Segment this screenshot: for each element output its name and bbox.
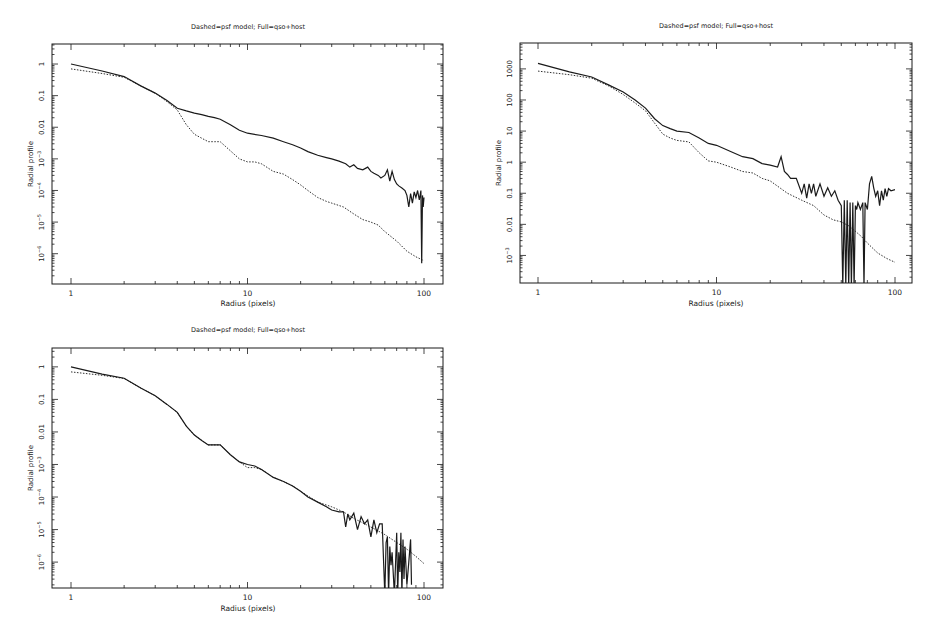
chart-svg: Dashed=psf model; Full=qso+host Radius (…	[468, 0, 936, 318]
chart-panel-2: Dashed=psf model; Full=qso+host Radius (…	[468, 0, 936, 318]
x-axis-label: Radius (pixels)	[220, 604, 275, 613]
plot-area: 11010010.10.0110−310−410−510−6	[36, 44, 443, 298]
y-tick-label: 0.1	[38, 394, 46, 405]
y-tick-label: 10−3	[36, 456, 46, 472]
y-tick-label: 0.01	[38, 119, 46, 135]
x-tick-label: 100	[888, 288, 903, 297]
y-tick-label: 1	[506, 160, 514, 164]
y-tick-label: 1	[38, 365, 46, 369]
y-tick-label: 1	[38, 62, 46, 66]
plot-area: 11010010001001010.10.0110−3	[504, 43, 912, 297]
y-tick-label: 10−3	[36, 151, 46, 167]
y-axis-label: Radial profile	[27, 141, 35, 187]
y-tick-label: 10−5	[36, 214, 46, 230]
chart-svg: Dashed=psf model; Full=qso+host Radius (…	[0, 0, 470, 318]
y-tick-label: 0.01	[506, 217, 514, 233]
y-tick-label: 1000	[506, 60, 514, 78]
x-tick-label: 1	[536, 288, 541, 297]
y-axis-label: Radial profile	[27, 445, 35, 491]
x-tick-label: 1	[69, 289, 74, 298]
y-tick-label: 100	[506, 93, 514, 106]
chart-title: Dashed=psf model; Full=qso+host	[659, 22, 773, 30]
y-tick-label: 10	[506, 127, 514, 136]
chart-title: Dashed=psf model; Full=qso+host	[191, 23, 305, 31]
chart-title: Dashed=psf model; Full=qso+host	[191, 326, 305, 334]
qso-host-line	[71, 64, 424, 263]
x-tick-label: 10	[712, 288, 722, 297]
y-tick-label: 10−5	[36, 521, 46, 537]
chart-svg: Dashed=psf model; Full=qso+host Radius (…	[0, 315, 470, 641]
y-tick-label: 10−4	[36, 182, 46, 198]
psf-model-line	[71, 69, 424, 261]
x-axis-label: Radius (pixels)	[220, 299, 275, 308]
plot-frame	[52, 44, 443, 284]
x-tick-label: 1	[69, 593, 74, 602]
y-tick-label: 0.1	[506, 188, 514, 199]
chart-panel-1: Dashed=psf model; Full=qso+host Radius (…	[0, 0, 470, 318]
y-tick-label: 10−6	[36, 246, 46, 262]
y-tick-label: 10−4	[36, 489, 46, 505]
x-tick-label: 10	[243, 289, 253, 298]
x-tick-label: 100	[417, 593, 432, 602]
x-tick-label: 10	[243, 593, 253, 602]
plot-frame	[52, 348, 443, 588]
x-axis-label: Radius (pixels)	[688, 299, 743, 308]
plot-area: 11010010.10.0110−310−410−510−6	[36, 348, 443, 602]
qso-host-line	[71, 367, 412, 595]
y-tick-label: 0.01	[38, 424, 46, 440]
chart-panel-3: Dashed=psf model; Full=qso+host Radius (…	[0, 315, 470, 641]
y-tick-label: 10−3	[504, 247, 514, 263]
qso-host-line	[538, 63, 895, 286]
x-tick-label: 100	[417, 289, 432, 298]
y-axis-label: Radial profile	[495, 140, 503, 186]
y-tick-label: 0.1	[38, 90, 46, 101]
y-tick-label: 10−6	[36, 554, 46, 570]
